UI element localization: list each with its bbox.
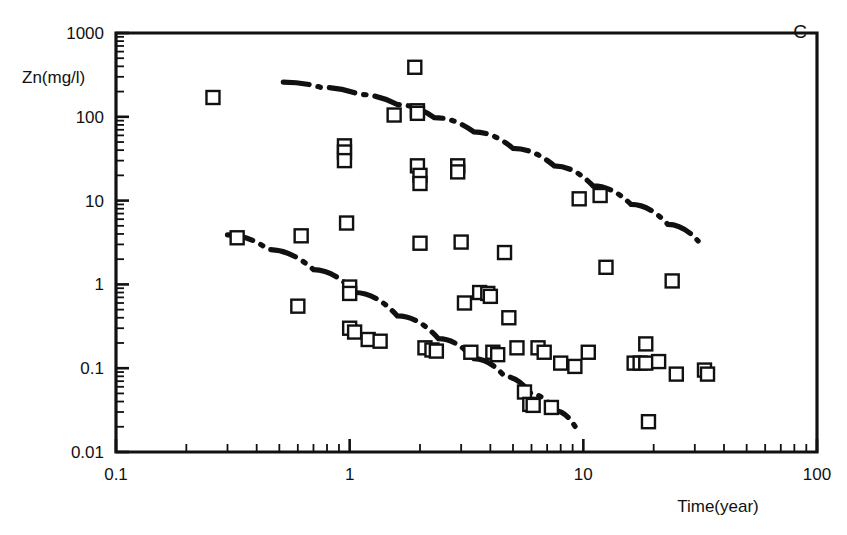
x-tick-label: 10 xyxy=(574,465,593,484)
y-tick-label: 100 xyxy=(76,108,104,127)
data-point-marker xyxy=(642,415,655,428)
data-point-marker xyxy=(374,335,387,348)
data-point-marker xyxy=(338,154,351,167)
data-point-marker xyxy=(652,355,665,368)
data-point-marker xyxy=(491,348,504,361)
plot-background xyxy=(0,0,847,535)
data-point-marker xyxy=(582,346,595,359)
data-point-marker xyxy=(458,296,471,309)
data-point-marker xyxy=(518,386,531,399)
data-point-marker xyxy=(411,107,424,120)
data-point-marker xyxy=(464,346,477,359)
x-axis-label: Time(year) xyxy=(677,497,759,516)
data-point-marker xyxy=(639,357,652,370)
data-point-marker xyxy=(599,261,612,274)
y-tick-label: 0.1 xyxy=(80,359,104,378)
x-tick-label: 1 xyxy=(345,465,354,484)
data-point-marker xyxy=(573,192,586,205)
data-point-marker xyxy=(388,109,401,122)
x-tick-label: 0.1 xyxy=(104,465,128,484)
data-point-marker xyxy=(348,326,361,339)
data-point-marker xyxy=(554,357,567,370)
data-point-marker xyxy=(206,91,219,104)
data-point-marker xyxy=(414,237,427,250)
data-point-marker xyxy=(502,311,515,324)
data-point-marker xyxy=(231,231,244,244)
y-tick-label: 10 xyxy=(85,192,104,211)
figure-panel-c: 0.1110100 0.010.11101001000 Zn(mg/l) Tim… xyxy=(0,0,847,535)
data-point-marker xyxy=(538,346,551,359)
data-point-marker xyxy=(291,300,304,313)
y-tick-label: 1 xyxy=(95,275,104,294)
y-tick-label: 0.01 xyxy=(71,443,104,462)
y-tick-label: 1000 xyxy=(66,24,104,43)
data-point-marker xyxy=(639,337,652,350)
data-point-marker xyxy=(484,290,497,303)
data-point-marker xyxy=(527,399,540,412)
data-point-marker xyxy=(340,217,353,230)
panel-label: C xyxy=(793,21,807,42)
data-point-marker xyxy=(568,360,581,373)
scatter-plot-zn-vs-time: 0.1110100 0.010.11101001000 Zn(mg/l) Tim… xyxy=(0,0,847,535)
data-point-marker xyxy=(451,165,464,178)
data-point-marker xyxy=(414,177,427,190)
data-point-marker xyxy=(666,274,679,287)
data-point-marker xyxy=(670,368,683,381)
x-tick-label: 100 xyxy=(803,465,831,484)
data-point-marker xyxy=(510,341,523,354)
data-point-marker xyxy=(498,246,511,259)
data-point-marker xyxy=(594,189,607,202)
data-point-marker xyxy=(430,345,443,358)
data-point-marker xyxy=(455,236,468,249)
data-point-marker xyxy=(701,368,714,381)
data-point-marker xyxy=(545,401,558,414)
y-axis-label: Zn(mg/l) xyxy=(22,68,85,87)
data-point-marker xyxy=(295,229,308,242)
data-point-marker xyxy=(408,61,421,74)
data-point-marker xyxy=(343,287,356,300)
